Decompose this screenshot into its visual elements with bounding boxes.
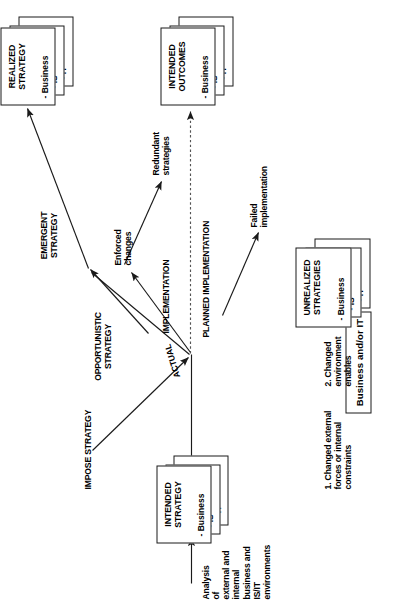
card-business: INTENDED OUTCOMES - Business — [160, 27, 215, 105]
card-business-label: - Business — [39, 55, 49, 98]
diagram-stage: Business and/or IT - IT - IS INTENDED ST… — [0, 0, 412, 605]
label-planned-implementation: PLANNED IMPLEMENTATION — [200, 220, 210, 337]
label-enforced-changes: Enforced changes — [112, 229, 132, 265]
label-implementation-word: IMPLEMENTATION — [160, 259, 170, 333]
card-business: INTENDED STRATEGY - Business — [156, 465, 211, 543]
connector-failed-implementation — [222, 232, 258, 315]
card-title: REALIZED STRATEGY — [6, 28, 27, 104]
diagram-canvas: Business and/or IT - IT - IS INTENDED ST… — [0, 0, 412, 605]
label-cause-two: 2. Changed environment enables — [322, 336, 352, 386]
label-failed-implementation: Failed implementation — [248, 166, 268, 227]
card-business: UNREALIZED STRATEGIES - Business — [295, 247, 351, 327]
card-business-label: - Business — [195, 493, 205, 536]
label-redundant-strategies: Redundant strategies — [150, 131, 170, 175]
card-business: REALIZED STRATEGY - Business — [0, 27, 55, 105]
card-title: INTENDED STRATEGY — [162, 466, 183, 542]
label-emergent-strategy: EMERGENT STRATEGY — [38, 195, 58, 275]
card-business-label: - Business — [199, 55, 209, 98]
label-opportunistic-strategy: OPPORTUNISTIC STRATEGY — [92, 303, 112, 389]
header-label: Business and/or IT — [353, 318, 364, 406]
box-realized-strategy: - IT - IS REALIZED STRATEGY - Business — [0, 13, 74, 105]
card-title: INTENDED OUTCOMES — [166, 28, 187, 104]
box-intended-strategy: - IT - IS INTENDED STRATEGY - Business — [156, 455, 228, 543]
box-intended-outcomes: - IT - IS INTENDED OUTCOMES - Business — [160, 13, 234, 105]
card-title: UNREALIZED STRATEGIES — [301, 248, 322, 326]
label-impose-strategy: IMPOSE STRATEGY — [82, 409, 92, 489]
label-analysis: Analysis of external and internal busine… — [200, 544, 271, 599]
label-cause-one: 1. Changed external forces or internal c… — [322, 410, 352, 489]
box-unrealized-strategies: - IT - IS UNREALIZED STRATEGIES - Busine… — [295, 235, 371, 327]
card-business-label: - Business — [335, 277, 345, 320]
